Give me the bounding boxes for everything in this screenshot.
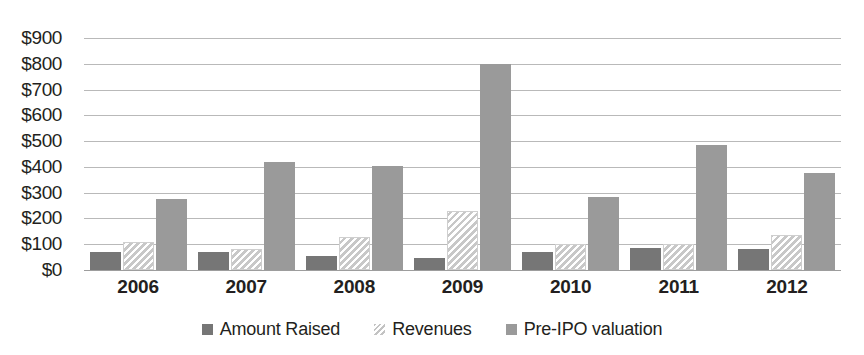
x-axis-label-2007: 2007 bbox=[192, 276, 300, 298]
bar-2010-revenues[interactable] bbox=[555, 244, 586, 270]
legend-item-revenues[interactable]: Revenues bbox=[374, 319, 471, 340]
bar-2008-revenues[interactable] bbox=[339, 237, 370, 271]
legend-label-revenues: Revenues bbox=[392, 319, 471, 340]
x-axis-label-2006: 2006 bbox=[84, 276, 192, 298]
bar-2007-pre-ipo-valuation[interactable] bbox=[264, 162, 295, 270]
bar-2008-pre-ipo-valuation[interactable] bbox=[372, 166, 403, 270]
x-axis-label-2010: 2010 bbox=[517, 276, 625, 298]
bar-group-2011 bbox=[625, 38, 733, 270]
legend-swatch-amount-raised-icon bbox=[202, 324, 213, 335]
legend-item-amount-raised[interactable]: Amount Raised bbox=[202, 319, 340, 340]
bar-2007-revenues[interactable] bbox=[231, 249, 262, 270]
legend-swatch-pre-ipo-valuation-icon bbox=[506, 324, 517, 335]
y-axis-label-100: $100 bbox=[0, 233, 62, 255]
y-axis-label-900: $900 bbox=[0, 27, 62, 49]
x-axis-tick-labels: 2006200720082009201020112012 bbox=[84, 276, 841, 298]
x-axis-label-2012: 2012 bbox=[733, 276, 841, 298]
bar-chart: $900$800$700$600$500$400$300$200$100$0 2… bbox=[0, 0, 864, 355]
bar-2008-amount-raised[interactable] bbox=[306, 256, 337, 270]
x-axis-label-2009: 2009 bbox=[408, 276, 516, 298]
y-axis-label-300: $300 bbox=[0, 182, 62, 204]
bar-group-2009 bbox=[408, 38, 516, 270]
x-axis-label-2008: 2008 bbox=[300, 276, 408, 298]
bar-group-2012 bbox=[733, 38, 841, 270]
x-axis-label-2011: 2011 bbox=[625, 276, 733, 298]
plot-area bbox=[84, 38, 841, 270]
bar-2011-pre-ipo-valuation[interactable] bbox=[696, 145, 727, 270]
bar-2010-pre-ipo-valuation[interactable] bbox=[588, 197, 619, 270]
bar-groups bbox=[84, 38, 841, 270]
legend-swatch-revenues-icon bbox=[374, 324, 385, 335]
bar-group-2008 bbox=[300, 38, 408, 270]
bar-group-2006 bbox=[84, 38, 192, 270]
y-axis-label-700: $700 bbox=[0, 79, 62, 101]
y-axis-label-600: $600 bbox=[0, 104, 62, 126]
bar-2012-revenues[interactable] bbox=[771, 235, 802, 270]
legend-label-amount-raised: Amount Raised bbox=[220, 319, 340, 340]
bar-2006-amount-raised[interactable] bbox=[90, 252, 121, 270]
bar-group-2007 bbox=[192, 38, 300, 270]
bar-2011-amount-raised[interactable] bbox=[630, 248, 661, 270]
bar-2010-amount-raised[interactable] bbox=[522, 252, 553, 270]
legend: Amount RaisedRevenuesPre-IPO valuation bbox=[0, 319, 864, 340]
bar-2012-amount-raised[interactable] bbox=[738, 249, 769, 270]
bar-2009-pre-ipo-valuation[interactable] bbox=[480, 64, 511, 270]
bar-2012-pre-ipo-valuation[interactable] bbox=[804, 173, 835, 270]
y-axis-label-400: $400 bbox=[0, 156, 62, 178]
bar-group-2010 bbox=[517, 38, 625, 270]
bar-2009-amount-raised[interactable] bbox=[414, 258, 445, 270]
bar-2007-amount-raised[interactable] bbox=[198, 252, 229, 270]
bar-2009-revenues[interactable] bbox=[447, 211, 478, 270]
y-axis-label-0: $0 bbox=[0, 259, 62, 281]
y-axis-label-500: $500 bbox=[0, 130, 62, 152]
gridline-0 bbox=[84, 270, 841, 271]
y-axis-label-800: $800 bbox=[0, 53, 62, 75]
bar-2006-pre-ipo-valuation[interactable] bbox=[156, 199, 187, 270]
legend-label-pre-ipo-valuation: Pre-IPO valuation bbox=[524, 319, 663, 340]
legend-item-pre-ipo-valuation[interactable]: Pre-IPO valuation bbox=[506, 319, 663, 340]
bar-2011-revenues[interactable] bbox=[663, 244, 694, 270]
y-axis-label-200: $200 bbox=[0, 207, 62, 229]
bar-2006-revenues[interactable] bbox=[123, 242, 154, 270]
